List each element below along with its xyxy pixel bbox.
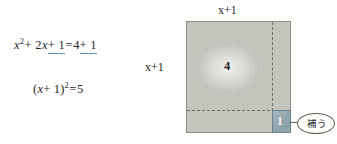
equation-line-1: x2+ 2x+ 1=4+ 1 <box>14 38 97 53</box>
square-diagram: x+1 x+1 4 1 補う <box>140 0 337 144</box>
equation-line-2: (x+ 1)2=5 <box>33 82 84 97</box>
callout-bubble: 補う <box>297 113 335 134</box>
vertical-dashed-divider <box>272 22 273 111</box>
eq1-equals: = <box>65 38 73 52</box>
callout-label: 補う <box>298 114 336 135</box>
eq2-equals: = <box>69 82 77 96</box>
diagram-top-side-label: x+1 <box>218 3 237 18</box>
area-label-four: 4 <box>224 59 230 74</box>
diagram-left-side-label: x+1 <box>145 60 164 75</box>
area-label-one: 1 <box>277 115 283 127</box>
eq2-plus-one: + 1 <box>43 82 60 96</box>
eq1-underlined-plus-one-left: + 1 <box>48 38 65 54</box>
eq1-term-four: 4 <box>73 38 79 52</box>
eq1-term-x2: x <box>42 38 48 52</box>
eq1-plus-2: + 2 <box>24 38 42 52</box>
eq2-term-five: 5 <box>77 82 83 96</box>
figure-canvas: x2+ 2x+ 1=4+ 1 (x+ 1)2=5 x+1 x+1 4 1 補う <box>0 0 337 144</box>
eq1-underlined-plus-one-right: + 1 <box>80 38 97 54</box>
